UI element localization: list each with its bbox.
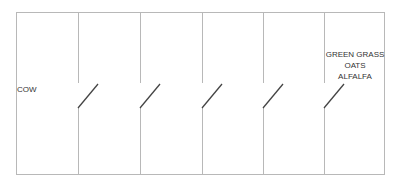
switch-2 [140,13,160,175]
switch-4 [263,13,283,175]
switch-chain-diagram [0,0,400,185]
cow-label: COW [17,84,37,95]
switch-3 [202,13,222,175]
food-label-oats: OATS [324,60,386,71]
switch-1 [78,13,98,175]
food-labels: GREEN GRASS OATS ALFALFA [324,49,386,82]
food-label-alfalfa: ALFALFA [324,71,386,82]
switch-5 [324,13,344,175]
outer-frame [17,13,385,175]
food-label-green-grass: GREEN GRASS [324,49,386,60]
